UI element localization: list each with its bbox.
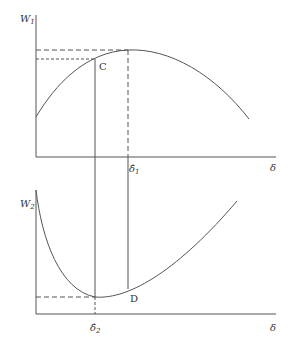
delta1-hat-label: δ̂1 bbox=[129, 163, 140, 176]
two-panel-welfare-diagram: W1 C δ̂1 δ W2 D δ̂2 δ bbox=[0, 0, 292, 346]
delta2-hat-label: δ̂2 bbox=[90, 322, 101, 335]
bottom-delta-axis-label: δ bbox=[270, 322, 276, 333]
point-c-label: C bbox=[99, 61, 107, 72]
w1-axis-label: W1 bbox=[20, 13, 35, 26]
w2-curve bbox=[36, 190, 237, 297]
bottom-panel: W2 D δ̂2 δ bbox=[20, 190, 276, 335]
top-delta-axis-label: δ bbox=[270, 162, 276, 173]
w1-curve bbox=[36, 50, 249, 119]
w2-axis-label: W2 bbox=[20, 198, 35, 211]
top-panel: W1 C δ̂1 δ bbox=[20, 13, 276, 176]
point-d-label: D bbox=[130, 293, 138, 304]
